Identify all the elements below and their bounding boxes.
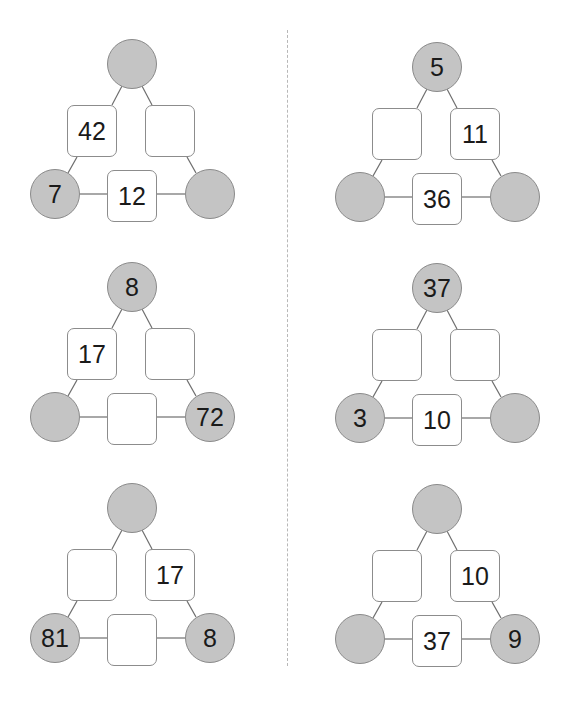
right-box[interactable] xyxy=(145,105,195,157)
puzzle-5: 17 81 8 xyxy=(30,483,250,673)
bottom-box[interactable] xyxy=(107,393,157,445)
left-box[interactable] xyxy=(372,329,422,381)
top-circle[interactable]: 5 xyxy=(412,42,462,92)
top-circle[interactable] xyxy=(107,39,157,89)
puzzle-3: 8 17 72 xyxy=(30,262,250,452)
right-circle[interactable]: 72 xyxy=(185,392,235,442)
top-circle[interactable]: 37 xyxy=(412,263,462,313)
right-circle[interactable] xyxy=(185,169,235,219)
bottom-box[interactable]: 12 xyxy=(107,170,157,222)
right-box[interactable]: 10 xyxy=(450,550,500,602)
left-box[interactable] xyxy=(372,108,422,160)
left-circle[interactable] xyxy=(335,614,385,664)
right-circle[interactable] xyxy=(490,172,540,222)
bottom-box[interactable]: 10 xyxy=(412,394,462,446)
left-box[interactable]: 17 xyxy=(67,328,117,380)
column-divider xyxy=(287,30,288,666)
left-box[interactable] xyxy=(372,550,422,602)
right-box[interactable] xyxy=(145,328,195,380)
left-box[interactable]: 42 xyxy=(67,105,117,157)
right-circle[interactable]: 9 xyxy=(490,614,540,664)
right-box[interactable]: 17 xyxy=(145,549,195,601)
left-circle[interactable] xyxy=(335,172,385,222)
puzzle-2: 5 11 36 xyxy=(335,42,555,232)
bottom-box[interactable] xyxy=(107,614,157,666)
puzzle-4: 37 3 10 xyxy=(335,263,555,453)
puzzle-6: 10 37 9 xyxy=(335,484,555,674)
left-circle[interactable] xyxy=(30,392,80,442)
top-circle[interactable] xyxy=(107,483,157,533)
right-circle[interactable] xyxy=(490,393,540,443)
right-box[interactable] xyxy=(450,329,500,381)
top-circle[interactable] xyxy=(412,484,462,534)
puzzle-1: 42 7 12 xyxy=(30,39,250,229)
right-circle[interactable]: 8 xyxy=(185,613,235,663)
top-circle[interactable]: 8 xyxy=(107,262,157,312)
bottom-box[interactable]: 36 xyxy=(412,173,462,225)
right-box[interactable]: 11 xyxy=(450,108,500,160)
left-circle[interactable]: 81 xyxy=(30,613,80,663)
bottom-box[interactable]: 37 xyxy=(412,615,462,667)
left-box[interactable] xyxy=(67,549,117,601)
left-circle[interactable]: 7 xyxy=(30,169,80,219)
left-circle[interactable]: 3 xyxy=(335,393,385,443)
